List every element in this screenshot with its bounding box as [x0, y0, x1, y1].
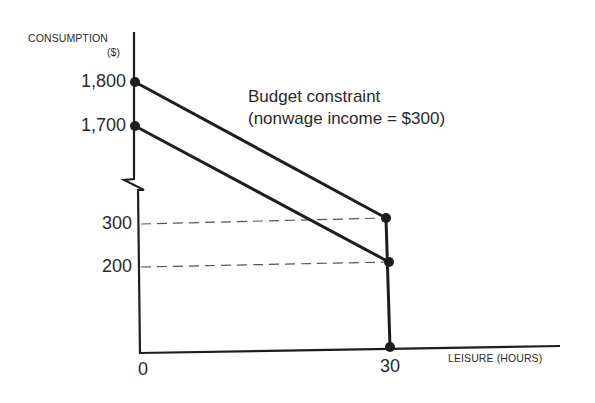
y-axis-unit: ($): [107, 46, 120, 58]
x-tick-0: 0: [138, 359, 148, 380]
point-1800: [130, 77, 140, 87]
dashed-line-300: [141, 218, 386, 224]
y-tick-200: 200: [62, 256, 132, 277]
vertical-segment-30: [386, 218, 390, 347]
y-tick-1700: 1,700: [56, 115, 126, 136]
point-1700: [130, 121, 140, 131]
point-200: [384, 257, 394, 267]
y-axis-lower: [138, 189, 140, 354]
y-axis-title: CONSUMPTION: [28, 32, 108, 44]
point-30-0: [385, 342, 395, 352]
x-axis-title: LEISURE (HOURS): [448, 352, 542, 364]
y-tick-300: 300: [62, 213, 132, 234]
y-tick-1800: 1,800: [56, 71, 126, 92]
chart-canvas: [0, 0, 595, 403]
annotation-line-2: (nonwage income = $300): [248, 108, 445, 130]
annotation-budget-constraint: Budget constraint (nonwage income = $300…: [248, 86, 445, 130]
budget-line-lower: [135, 126, 389, 262]
point-300: [381, 213, 391, 223]
x-tick-30: 30: [380, 356, 400, 377]
y-axis-break: [124, 176, 144, 190]
dashed-line-200: [141, 262, 389, 267]
annotation-line-1: Budget constraint: [248, 86, 445, 108]
